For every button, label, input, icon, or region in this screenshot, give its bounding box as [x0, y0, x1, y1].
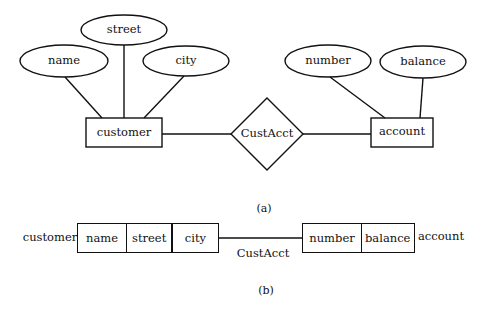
link-label-custacct: CustAcct [237, 248, 290, 260]
record-label-customer: customer [23, 232, 78, 244]
record-field-name: name [77, 223, 127, 253]
caption-b: (b) [258, 284, 274, 297]
caption-a: (a) [256, 202, 271, 215]
attribute-label-street: street [107, 24, 141, 36]
connector-name-customer [65, 77, 102, 118]
relationship-label: CustAcct [241, 128, 294, 140]
entity-label-customer: customer [97, 127, 152, 139]
record-field-number: number [302, 223, 362, 253]
diagram-canvas [0, 0, 490, 309]
entity-label-account: account [379, 126, 425, 138]
connector-balance-account [420, 78, 423, 118]
connector-number-account [330, 77, 385, 118]
record-field-street: street [126, 223, 173, 253]
attribute-label-balance: balance [400, 56, 445, 68]
record-field-balance: balance [361, 223, 415, 253]
record-field-city: city [171, 223, 219, 253]
attribute-label-name: name [48, 55, 80, 67]
record-label-account: account [418, 231, 464, 243]
attribute-label-number: number [305, 55, 350, 67]
attribute-label-city: city [175, 55, 196, 67]
connector-city-customer [144, 76, 184, 118]
